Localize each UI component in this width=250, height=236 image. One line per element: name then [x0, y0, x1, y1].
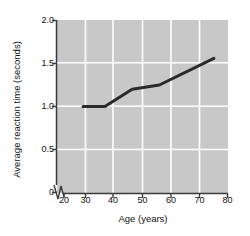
x-tick-label: 30 [73, 196, 99, 205]
x-tick-label: 80 [215, 196, 241, 205]
x-axis-tick-labels: 20 30 40 50 60 70 80 [0, 196, 250, 210]
chart-figure: Average reaction time (seconds) 2.0 1.5 … [0, 0, 250, 236]
x-tick-label: 50 [130, 196, 156, 205]
x-tick-label: 40 [100, 196, 126, 205]
x-tick-label: 70 [187, 196, 213, 205]
x-axis-label: Age (years) [57, 213, 229, 224]
x-tick-label: 60 [158, 196, 184, 205]
